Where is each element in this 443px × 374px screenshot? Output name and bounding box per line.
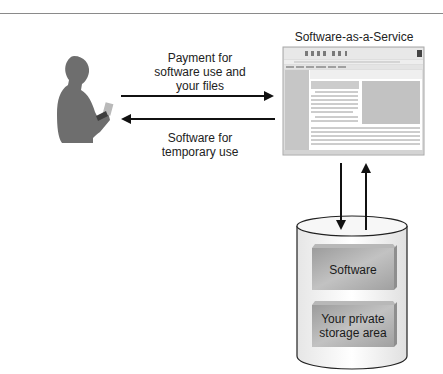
database-cylinder-icon [297,216,407,369]
private-storage-label: Your private storage area [312,312,394,340]
arrow-to-service [121,91,274,101]
software-box-label: Software [312,263,394,277]
browser-window-icon [283,47,424,155]
person-with-phone-icon [57,56,113,143]
private-storage-label-line-2: storage area [312,326,394,340]
arrow-to-user [121,114,275,124]
private-storage-label-line-1: Your private [312,312,394,326]
software-box-label-line-1: Software [312,263,394,277]
